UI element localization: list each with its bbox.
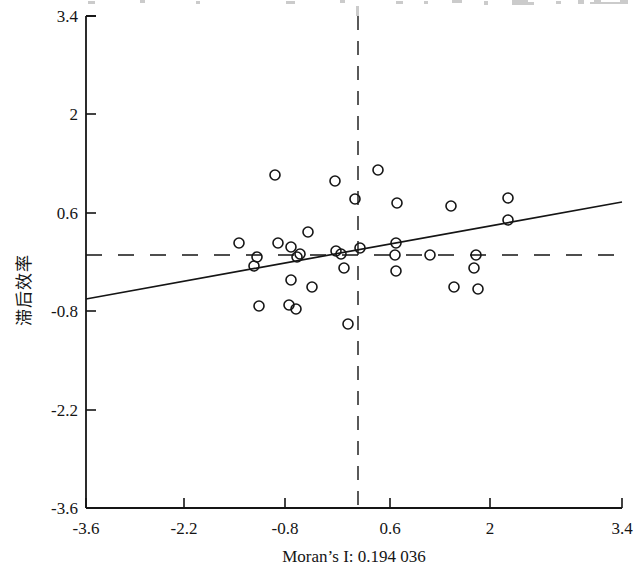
data-point: [392, 198, 402, 208]
x-tick-label: -3.6: [73, 519, 100, 538]
data-point: [446, 201, 456, 211]
x-tick-label: -0.8: [272, 519, 299, 538]
data-point: [303, 227, 313, 237]
data-point: [270, 170, 280, 180]
x-tick-labels: -3.6 -2.2 -0.8 0.6 2 3.4: [73, 519, 634, 538]
scatter-plot-canvas: 3.4 2 0.6 -0.8 -2.2 -3.6 -3.6 -2.2 -0.8 …: [0, 0, 636, 572]
data-point: [254, 301, 264, 311]
y-tick-label: -2.2: [51, 401, 78, 420]
data-point: [330, 176, 340, 186]
y-tick-label: 3.4: [57, 7, 79, 26]
data-point: [249, 261, 259, 271]
x-tick-label: 3.4: [611, 519, 633, 538]
moran-regression-line: [86, 202, 622, 299]
y-axis-title: 滞后效率: [14, 254, 34, 326]
scan-artifact: [88, 0, 628, 16]
data-point: [307, 282, 317, 292]
y-tick-labels: 3.4 2 0.6 -0.8 -2.2 -3.6: [51, 7, 78, 518]
data-point: [343, 319, 353, 329]
x-axis-title: Moran’s I: 0.194 036: [282, 547, 426, 566]
x-tick-label: 2: [486, 519, 495, 538]
y-tick-label: -3.6: [51, 499, 78, 518]
data-point: [286, 242, 296, 252]
y-axis: [86, 16, 96, 508]
x-tick-label: -2.2: [171, 519, 198, 538]
data-point: [373, 165, 383, 175]
data-point: [273, 238, 283, 248]
data-point: [503, 193, 513, 203]
x-tick-label: 0.6: [379, 519, 400, 538]
data-point: [286, 275, 296, 285]
data-point: [503, 215, 513, 225]
data-point: [469, 263, 479, 273]
data-point: [449, 282, 459, 292]
data-point: [234, 238, 244, 248]
moran-scatterplot-figure: 3.4 2 0.6 -0.8 -2.2 -3.6 -3.6 -2.2 -0.8 …: [0, 0, 636, 572]
y-tick-label: 2: [70, 105, 79, 124]
y-tick-label: -0.8: [51, 302, 78, 321]
data-point: [425, 250, 435, 260]
data-point: [390, 250, 400, 260]
x-axis: [86, 498, 622, 508]
data-point: [473, 284, 483, 294]
data-point: [391, 266, 401, 276]
y-tick-label: 0.6: [57, 204, 78, 223]
data-point: [339, 263, 349, 273]
